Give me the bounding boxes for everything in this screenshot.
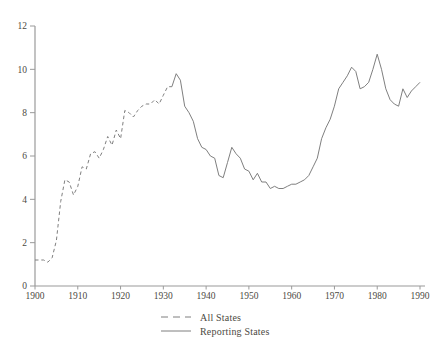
x-tick-label: 1900 (26, 291, 45, 301)
legend-label-all-states: All States (200, 312, 241, 323)
line-chart-figure: 0246810121900191019201930194019501960197… (0, 0, 444, 350)
x-tick-label: 1910 (68, 291, 87, 301)
legend-solid-line-sample (158, 327, 192, 335)
series-line-all-states (35, 87, 172, 263)
chart-legend: All States Reporting States (158, 311, 270, 337)
x-tick-label: 1940 (197, 291, 216, 301)
x-tick-label: 1990 (411, 291, 430, 301)
x-tick-label: 1950 (239, 291, 258, 301)
y-tick-label: 10 (18, 65, 28, 75)
y-tick-label: 12 (18, 21, 28, 31)
x-tick-label: 1980 (368, 291, 387, 301)
y-tick-label: 0 (22, 281, 27, 291)
legend-label-reporting-states: Reporting States (200, 326, 270, 337)
legend-item-reporting-states: Reporting States (158, 325, 270, 337)
x-tick-label: 1920 (111, 291, 130, 301)
series-line-reporting-states (172, 54, 420, 188)
y-tick-label: 4 (22, 195, 27, 205)
y-tick-label: 8 (22, 108, 27, 118)
x-tick-label: 1970 (325, 291, 344, 301)
plot-area: 0246810121900191019201930194019501960197… (0, 0, 444, 350)
y-tick-label: 2 (22, 238, 27, 248)
x-tick-label: 1930 (154, 291, 173, 301)
legend-item-all-states: All States (158, 311, 270, 323)
legend-dashed-line-sample (158, 313, 192, 321)
x-tick-label: 1960 (282, 291, 301, 301)
y-tick-label: 6 (22, 151, 27, 161)
